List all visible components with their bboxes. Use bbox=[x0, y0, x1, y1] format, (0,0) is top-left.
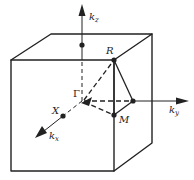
label-gamma: Γ bbox=[73, 89, 80, 99]
point-M bbox=[111, 112, 116, 117]
label-kz: kz bbox=[89, 12, 99, 24]
kz-axis bbox=[79, 4, 86, 101]
label-X: X bbox=[52, 106, 59, 116]
kx-arrowhead-icon bbox=[35, 126, 47, 138]
point-right bbox=[130, 98, 135, 103]
label-M: M bbox=[119, 115, 129, 125]
gamma-arrowhead-icon bbox=[81, 97, 92, 106]
path-right-M bbox=[114, 101, 133, 115]
ky-axis bbox=[133, 98, 189, 105]
point-top-center bbox=[79, 42, 84, 47]
brillouin-zone-diagram bbox=[0, 0, 194, 180]
label-R: R bbox=[106, 46, 114, 56]
label-kx: kx bbox=[49, 131, 59, 143]
point-R bbox=[111, 57, 116, 62]
path-R-right bbox=[114, 60, 133, 101]
path-gamma-R bbox=[84, 60, 114, 100]
point-X bbox=[60, 113, 65, 118]
kz-arrowhead-icon bbox=[79, 4, 86, 16]
ky-arrowhead-icon bbox=[176, 98, 189, 105]
label-ky: ky bbox=[169, 105, 179, 117]
